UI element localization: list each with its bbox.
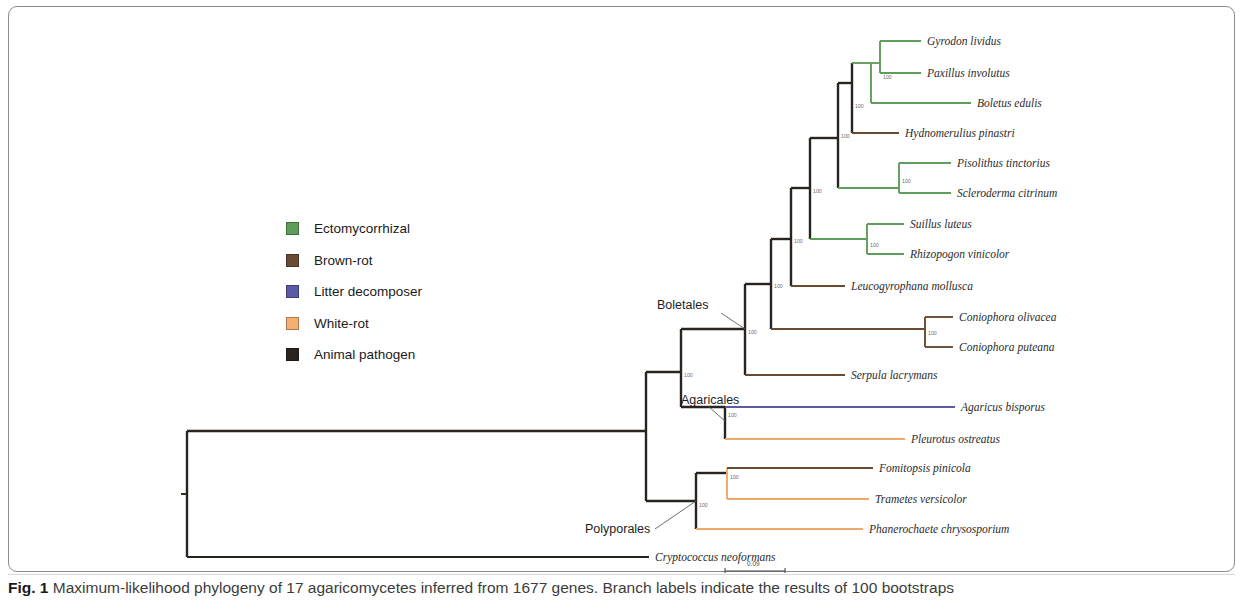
leader-line-boletales	[721, 313, 745, 329]
legend-label: Brown-rot	[314, 253, 373, 268]
taxon-label-phanerochaete-chrysosporium: Phanerochaete chrysosporium	[868, 523, 1009, 536]
legend-item-brown-rot: Brown-rot	[286, 245, 516, 277]
legend-label: Ectomycorrhizal	[314, 221, 410, 236]
taxon-label-gyrodon-lividus: Gyrodon lividus	[927, 35, 1002, 48]
taxon-label-pisolithus-tinctorius: Pisolithus tinctorius	[956, 157, 1050, 169]
taxon-label-boletus-edulis: Boletus edulis	[977, 97, 1042, 109]
legend-item-ectomycorrhizal: Ectomycorrhizal	[286, 213, 516, 245]
figure-root: 100 100 100 100 100 100 100 100 100 100 …	[0, 0, 1243, 616]
legend-label: White-rot	[314, 316, 369, 331]
taxon-label-fomitopsis-pinicola: Fomitopsis pinicola	[878, 462, 971, 475]
figure-caption: Fig. 1 Maximum-likelihood phylogeny of 1…	[8, 578, 1235, 598]
bootstrap-label: 100	[883, 74, 892, 80]
clade-label-polyporales: Polyporales	[585, 522, 650, 536]
taxon-label-leucogyrophana-mollusca: Leucogyrophana mollusca	[850, 280, 973, 293]
bootstrap-label: 100	[699, 502, 708, 508]
bootstrap-label: 100	[813, 188, 822, 194]
figure-number: Fig. 1	[8, 579, 48, 596]
legend-item-animal-pathogen: Animal pathogen	[286, 339, 516, 371]
leader-line-agaricales	[709, 407, 725, 421]
taxon-label-paxillus-involutus: Paxillus involutus	[926, 67, 1010, 79]
clade-label-agaricales: Agaricales	[681, 393, 739, 407]
caption-divider	[8, 574, 1235, 575]
taxon-label-agaricus-bisporus: Agaricus bisporus	[960, 401, 1046, 414]
bootstrap-label: 100	[794, 238, 803, 244]
phylogenetic-tree: 100 100 100 100 100 100 100 100 100 100 …	[9, 7, 1236, 573]
bootstrap-label: 100	[684, 372, 693, 378]
bootstrap-label: 100	[870, 242, 879, 248]
legend-swatch-icon	[286, 222, 299, 235]
figure-panel: 100 100 100 100 100 100 100 100 100 100 …	[8, 6, 1235, 572]
scale-bar-label: 0.09	[747, 560, 760, 567]
figure-caption-text: Maximum-likelihood phylogeny of 17 agari…	[53, 579, 954, 596]
legend-swatch-icon	[286, 285, 299, 298]
taxon-label-pleurotus-ostreatus: Pleurotus ostreatus	[910, 433, 1000, 445]
taxon-label-rhizopogon-vinicolor: Rhizopogon vinicolor	[909, 248, 1010, 261]
bootstrap-label: 100	[928, 330, 937, 336]
legend-item-litter-decomposer: Litter decomposer	[286, 276, 516, 308]
legend-item-white-rot: White-rot	[286, 308, 516, 340]
leader-line-polyporales	[655, 501, 696, 529]
taxon-label-scleroderma-citrinum: Scleroderma citrinum	[957, 187, 1057, 199]
bootstrap-label: 100	[902, 178, 911, 184]
bootstrap-label: 100	[730, 474, 739, 480]
bootstrap-label: 100	[841, 133, 850, 139]
clade-label-boletales: Boletales	[657, 298, 708, 312]
bootstrap-label: 100	[728, 412, 737, 418]
legend-swatch-icon	[286, 254, 299, 267]
taxon-label-suillus-luteus: Suillus luteus	[910, 218, 972, 230]
taxon-label-coniophora-olivacea: Coniophora olivacea	[959, 311, 1057, 324]
bootstrap-label: 100	[855, 103, 864, 109]
legend-swatch-icon	[286, 317, 299, 330]
taxon-label-serpula-lacrymans: Serpula lacrymans	[851, 369, 938, 382]
taxon-label-coniophora-puteana: Coniophora puteana	[959, 341, 1055, 354]
legend-label: Animal pathogen	[314, 347, 415, 362]
taxon-label-trametes-versicolor: Trametes versicolor	[875, 493, 967, 505]
bootstrap-label: 100	[748, 329, 757, 335]
legend-swatch-icon	[286, 348, 299, 361]
bootstrap-label: 100	[774, 283, 783, 289]
legend-label: Litter decomposer	[314, 284, 422, 299]
taxon-label-hydnomerulius-pinastri: Hydnomerulius pinastri	[904, 127, 1015, 140]
legend: Ectomycorrhizal Brown-rot Litter decompo…	[286, 213, 516, 371]
